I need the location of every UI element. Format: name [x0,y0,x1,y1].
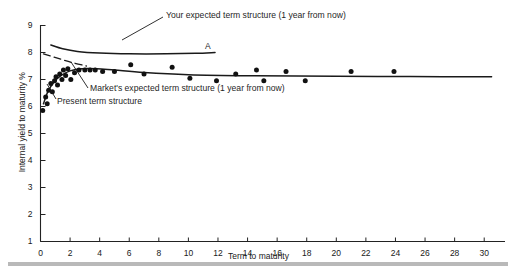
annotation-present-term-structure: Present term structure [57,97,142,106]
term-structure-chart [0,0,514,270]
leader-line-0 [122,17,163,40]
x-tick-label: 28 [446,249,464,258]
data-point [61,68,66,73]
x-tick-label: 30 [475,249,493,258]
data-point [93,68,98,73]
x-tick-label: 26 [416,249,434,258]
data-point [45,101,50,106]
data-point [55,82,60,87]
bottom-divider-rule [8,262,508,266]
x-tick-label: 2 [61,249,79,258]
annotation-markets-expected: Market's expected term structure (1 year… [90,84,285,93]
data-point [187,76,192,81]
x-tick-label: 20 [327,249,345,258]
curve-2 [43,54,86,66]
data-point [170,65,175,70]
figure-container: 024681012141618202224262830 123456789 In… [0,0,514,270]
y-tick-label: 8 [19,48,33,57]
x-tick-label: 6 [120,249,138,258]
data-point [254,68,259,73]
y-tick-label: 9 [19,21,33,30]
data-point [40,108,45,113]
data-point [63,73,68,78]
x-tick-label: 10 [179,249,197,258]
x-tick-label: 8 [150,249,168,258]
data-point [303,78,308,83]
x-tick-label: 18 [298,249,316,258]
data-point [128,62,133,67]
y-axis-title: Internal yield to maturity % [18,62,27,182]
annotation-your-expected: Your expected term structure (1 year fro… [166,11,346,20]
annotation-point-a: A [205,42,211,51]
curve-group [43,45,491,104]
data-point [59,77,64,82]
data-point [43,95,48,100]
y-tick-label: 2 [19,210,33,219]
x-tick-label: 4 [91,249,109,258]
data-point [65,66,70,71]
data-point [391,69,396,74]
data-point [57,72,62,77]
data-point [100,69,105,74]
axis-lines [41,25,506,242]
y-tick-label: 1 [19,237,33,246]
x-tick-label: 22 [357,249,375,258]
x-tick-label: 12 [209,249,227,258]
data-point [284,69,289,74]
data-point [112,69,117,74]
curve-0 [51,45,215,54]
data-point [88,68,93,73]
y-tick-label: 3 [19,183,33,192]
x-tick-label: 0 [32,249,50,258]
data-point [233,72,238,77]
x-tick-label: 24 [386,249,404,258]
data-point [82,68,87,73]
axis-ticks [41,26,485,242]
x-axis-title: Term to maturity [228,252,289,261]
data-point [142,72,147,77]
data-point [68,77,73,82]
data-point [72,70,77,75]
data-point [349,69,354,74]
